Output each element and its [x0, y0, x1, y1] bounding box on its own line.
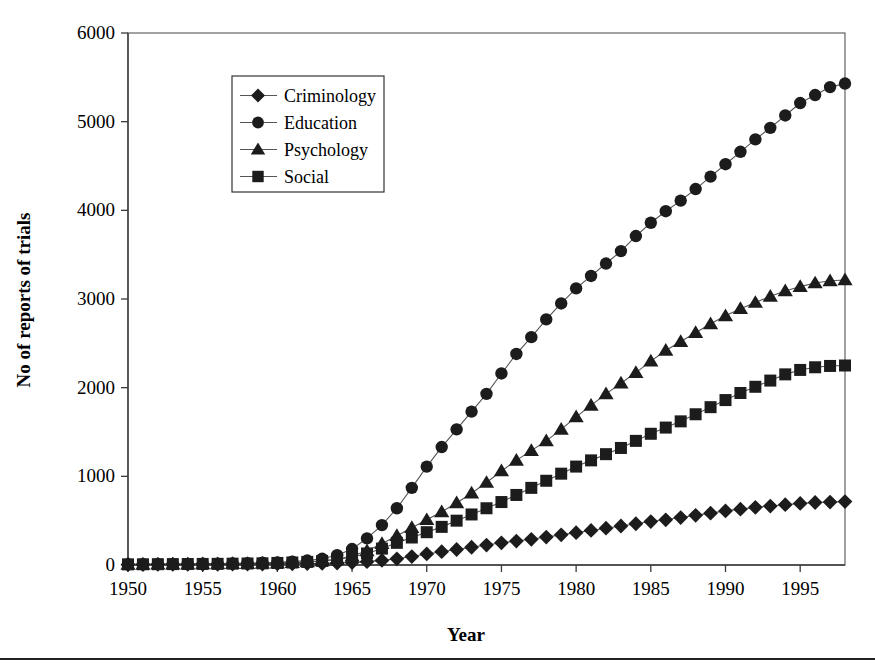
marker-square: [630, 435, 642, 447]
marker-circle: [704, 170, 716, 182]
marker-circle: [615, 245, 627, 257]
marker-circle: [435, 441, 447, 453]
x-axis-title: Year: [447, 624, 486, 645]
marker-square: [137, 558, 149, 570]
marker-circle: [674, 194, 686, 206]
x-tick-label: 1960: [258, 578, 296, 599]
y-axis-title: No of reports of trials: [13, 213, 34, 388]
marker-circle: [510, 348, 522, 360]
marker-square: [301, 556, 313, 568]
x-tick-label: 1985: [632, 578, 670, 599]
marker-square: [331, 554, 343, 566]
marker-square: [555, 468, 567, 480]
y-tick-label: 4000: [77, 199, 115, 220]
marker-circle: [645, 217, 657, 229]
marker-circle: [376, 519, 388, 531]
marker-circle: [391, 502, 403, 514]
marker-circle: [719, 158, 731, 170]
marker-square: [660, 422, 672, 434]
x-tick-label: 1980: [557, 578, 595, 599]
marker-circle: [570, 282, 582, 294]
marker-circle: [600, 257, 612, 269]
legend-item-label: Criminology: [284, 86, 376, 106]
marker-circle: [689, 183, 701, 195]
marker-square: [167, 558, 179, 570]
marker-square: [212, 558, 224, 570]
marker-circle: [465, 405, 477, 417]
x-tick-label: 1995: [781, 578, 819, 599]
line-chart-svg: 1950195519601965197019751980198519901995…: [0, 0, 875, 665]
y-tick-label: 5000: [77, 111, 115, 132]
marker-circle: [764, 122, 776, 134]
chart-legend[interactable]: CriminologyEducationPsychologySocial: [232, 76, 384, 192]
marker-square: [391, 537, 403, 549]
marker-square: [570, 461, 582, 473]
y-tick-label: 2000: [77, 377, 115, 398]
y-tick-label: 1000: [77, 465, 115, 486]
marker-square: [242, 557, 254, 569]
marker-square: [421, 526, 433, 538]
marker-circle: [480, 388, 492, 400]
marker-square: [645, 428, 657, 440]
marker-circle: [540, 313, 552, 325]
marker-square: [824, 360, 836, 372]
marker-circle: [809, 89, 821, 101]
legend-item-label: Education: [284, 113, 357, 133]
legend-item-label: Social: [284, 167, 329, 187]
marker-square: [361, 547, 373, 559]
x-tick-label: 1955: [184, 578, 222, 599]
marker-square: [197, 558, 209, 570]
x-tick-label: 1970: [408, 578, 446, 599]
marker-square: [481, 502, 493, 514]
marker-square: [346, 551, 358, 563]
marker-square: [376, 543, 388, 555]
marker-square: [734, 387, 746, 399]
marker-square: [600, 448, 612, 460]
marker-square: [182, 558, 194, 570]
marker-square: [720, 394, 732, 406]
marker-square: [316, 555, 328, 567]
marker-square: [779, 368, 791, 380]
x-tick-label: 1965: [333, 578, 371, 599]
marker-square: [451, 515, 463, 527]
marker-square: [466, 508, 478, 520]
marker-circle: [839, 77, 851, 89]
marker-square: [705, 401, 717, 413]
y-tick-label: 3000: [77, 288, 115, 309]
marker-circle: [361, 532, 373, 544]
marker-circle: [779, 109, 791, 121]
marker-square: [794, 364, 806, 376]
marker-square: [585, 454, 597, 466]
marker-square: [675, 415, 687, 427]
marker-square: [809, 361, 821, 373]
marker-circle: [794, 97, 806, 109]
marker-square: [495, 496, 507, 508]
marker-circle: [450, 423, 462, 435]
marker-circle: [660, 205, 672, 217]
marker-circle: [734, 146, 746, 158]
marker-square: [615, 442, 627, 454]
marker-square: [540, 475, 552, 487]
marker-circle: [252, 117, 264, 129]
marker-square: [510, 489, 522, 501]
y-tick-label: 6000: [77, 22, 115, 43]
marker-circle: [824, 81, 836, 93]
marker-circle: [630, 230, 642, 242]
marker-square: [690, 408, 702, 420]
marker-square: [227, 558, 239, 570]
marker-square: [122, 558, 134, 570]
marker-square: [252, 171, 263, 182]
marker-square: [839, 360, 851, 372]
marker-circle: [525, 331, 537, 343]
marker-square: [256, 557, 268, 569]
marker-square: [406, 532, 418, 544]
marker-circle: [749, 133, 761, 145]
marker-circle: [406, 482, 418, 494]
x-tick-label: 1975: [482, 578, 520, 599]
legend-item-label: Psychology: [284, 140, 368, 160]
y-tick-label: 0: [106, 554, 116, 575]
marker-square: [152, 558, 164, 570]
marker-square: [286, 557, 298, 569]
x-tick-label: 1990: [707, 578, 745, 599]
marker-square: [764, 375, 776, 387]
